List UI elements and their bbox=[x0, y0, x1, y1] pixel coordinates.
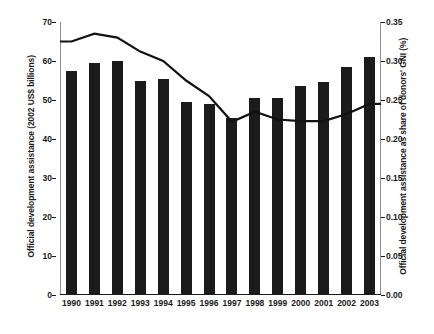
y-right-tick-mark bbox=[381, 256, 385, 257]
gni-share-line bbox=[60, 34, 381, 122]
x-axis-ticks: 1990199119921993199419951996199719981999… bbox=[60, 299, 381, 319]
y-left-tick-mark bbox=[52, 61, 56, 62]
y-axis-left-ticks: 010203040506070 bbox=[26, 0, 56, 334]
y-left-tick-label: 50 bbox=[43, 96, 52, 105]
y-left-tick-mark bbox=[52, 256, 56, 257]
y-right-tick-mark bbox=[381, 61, 385, 62]
y-right-tick-label: 0.15 bbox=[386, 174, 403, 183]
plot-area bbox=[60, 22, 381, 295]
y-left-tick-mark bbox=[52, 178, 56, 179]
y-left-tick-mark bbox=[52, 217, 56, 218]
y-right-tick-label: 0.35 bbox=[386, 18, 403, 27]
y-left-tick-mark bbox=[52, 139, 56, 140]
y-left-tick-label: 10 bbox=[43, 252, 52, 261]
y-right-tick-label: 0.05 bbox=[386, 252, 403, 261]
y-left-tick-label: 70 bbox=[43, 18, 52, 27]
y-right-tick-mark bbox=[381, 217, 385, 218]
y-right-tick-label: 0.25 bbox=[386, 96, 403, 105]
y-right-tick-label: 0.00 bbox=[386, 291, 403, 300]
y-right-tick-mark bbox=[381, 22, 385, 23]
chart-figure: Official development assistance (2002 US… bbox=[0, 0, 434, 334]
y-right-tick-label: 0.30 bbox=[386, 57, 403, 66]
y-right-tick-label: 0.10 bbox=[386, 213, 403, 222]
y-left-tick-label: 20 bbox=[43, 213, 52, 222]
y-right-tick-mark bbox=[381, 139, 385, 140]
x-axis-tick-label: 2003 bbox=[357, 299, 383, 308]
y-right-tick-mark bbox=[381, 178, 385, 179]
y-left-tick-label: 40 bbox=[43, 135, 52, 144]
y-right-tick-label: 0.20 bbox=[386, 135, 403, 144]
y-right-tick-mark bbox=[381, 295, 385, 296]
y-left-tick-label: 30 bbox=[43, 174, 52, 183]
y-left-tick-mark bbox=[52, 100, 56, 101]
y-left-tick-label: 60 bbox=[43, 57, 52, 66]
line-series bbox=[60, 22, 381, 295]
y-left-tick-mark bbox=[52, 22, 56, 23]
y-axis-right-ticks: 0.000.050.100.150.200.250.300.35 bbox=[381, 0, 411, 334]
y-left-tick-mark bbox=[52, 295, 56, 296]
y-right-tick-mark bbox=[381, 100, 385, 101]
